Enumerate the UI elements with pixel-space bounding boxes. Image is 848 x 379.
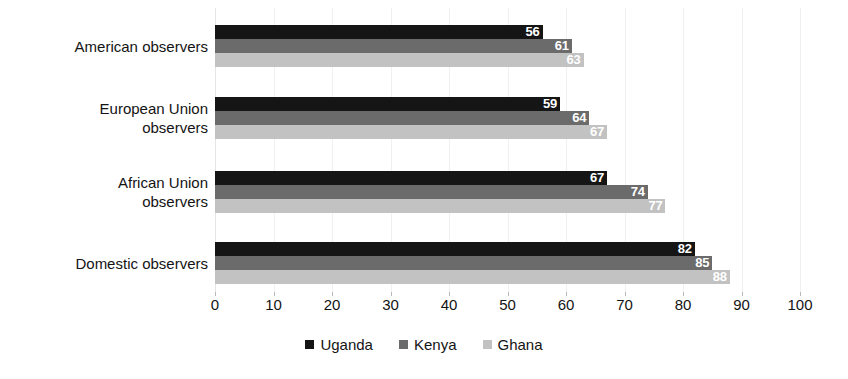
bar-group: 677477 [215,171,800,213]
bar-group: 596467 [215,97,800,139]
bar-value-label: 59 [212,97,557,111]
category-label: European Union observers [8,99,208,137]
axis-tick-label: 100 [780,296,820,313]
bar-group: 828588 [215,242,800,284]
axis-tick-label: 40 [429,296,469,313]
bar-uganda[interactable]: 56 [215,25,543,39]
bar-row: 64 [215,111,800,125]
category-label: American observers [8,37,208,56]
bar-value-label: 77 [212,199,662,213]
category-label: Domestic observers [8,254,208,273]
legend-swatch-icon [305,340,314,349]
bar-kenya[interactable]: 85 [215,256,712,270]
chart-legend: UgandaKenyaGhana [0,337,848,352]
bar-value-label: 64 [212,111,586,125]
bar-uganda[interactable]: 82 [215,242,695,256]
chart-title [0,0,848,6]
legend-item-uganda[interactable]: Uganda [305,337,373,352]
legend-item-ghana[interactable]: Ghana [483,337,543,352]
bar-row: 67 [215,125,800,139]
axis-tick-label: 80 [663,296,703,313]
bar-uganda[interactable]: 59 [215,97,560,111]
legend-label: Kenya [414,337,457,352]
bar-ghana[interactable]: 88 [215,270,730,284]
bar-row: 67 [215,171,800,185]
bar-kenya[interactable]: 74 [215,185,648,199]
bar-chart: 566163596467677477828588 American observ… [0,0,848,379]
gridline [800,8,801,292]
legend-swatch-icon [483,340,492,349]
axis-tick-label: 0 [195,296,235,313]
axis-tick-label: 70 [605,296,645,313]
bar-row: 88 [215,270,800,284]
axis-tick-label: 90 [722,296,762,313]
legend-swatch-icon [399,340,408,349]
bar-row: 74 [215,185,800,199]
plot-area: 566163596467677477828588 [215,8,800,292]
bar-row: 61 [215,39,800,53]
bar-value-label: 63 [212,53,581,67]
bar-value-label: 82 [212,242,692,256]
bar-value-label: 61 [212,39,569,53]
bar-row: 56 [215,25,800,39]
axis-tick-label: 20 [312,296,352,313]
bar-value-label: 67 [212,171,604,185]
bar-kenya[interactable]: 61 [215,39,572,53]
bar-value-label: 85 [212,256,709,270]
bar-group: 566163 [215,25,800,67]
bar-row: 77 [215,199,800,213]
axis-tick-label: 10 [254,296,294,313]
legend-label: Ghana [498,337,543,352]
axis-tick-label: 60 [546,296,586,313]
bar-row: 59 [215,97,800,111]
axis-tick-label: 50 [488,296,528,313]
legend-item-kenya[interactable]: Kenya [399,337,457,352]
bar-value-label: 74 [212,185,645,199]
bar-value-label: 67 [212,125,604,139]
bar-row: 82 [215,242,800,256]
bar-ghana[interactable]: 63 [215,53,584,67]
bar-row: 63 [215,53,800,67]
legend-label: Uganda [320,337,373,352]
bar-uganda[interactable]: 67 [215,171,607,185]
axis-tick-label: 30 [371,296,411,313]
bar-ghana[interactable]: 67 [215,125,607,139]
bar-kenya[interactable]: 64 [215,111,589,125]
bar-row: 85 [215,256,800,270]
bar-value-label: 56 [212,25,540,39]
category-label: African Union observers [8,173,208,211]
bar-value-label: 88 [212,270,727,284]
bar-ghana[interactable]: 77 [215,199,665,213]
